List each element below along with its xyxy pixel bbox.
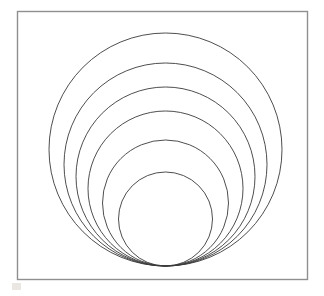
scan-artifact <box>12 283 21 290</box>
figure-border <box>18 12 308 280</box>
nested-circles-figure <box>0 0 324 296</box>
figure-root <box>0 0 324 296</box>
